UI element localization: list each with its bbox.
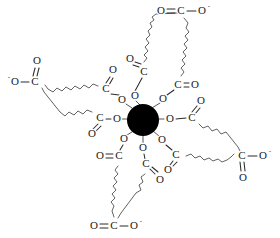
carbonyl-oxygen-c3: O [197, 94, 205, 106]
oxygen-label-o4: O [158, 133, 166, 145]
polymer-chain-top-right [181, 18, 189, 76]
polymer-chain-right-upper [199, 124, 240, 151]
outer-right-carbon: C [238, 149, 245, 161]
outer-left-carbon: C [31, 75, 38, 87]
polymer-chain-left-upper [45, 84, 98, 92]
outer-bottom-oxygen-double: O [90, 219, 98, 231]
carbonyl-c1-a [133, 65, 139, 67]
carbon-label-c6: C [115, 149, 122, 161]
carbonyl-oxygen-c6: O [96, 149, 104, 161]
polymer-chain-bottom-left [111, 166, 118, 217]
bond-o2-c2 [167, 90, 174, 95]
oxygen-label-o7: O [113, 112, 121, 124]
outer-carboxylate-right: C O - O [238, 147, 272, 183]
outer-left-oxygen-single: O [11, 75, 19, 87]
structure-canvas: O O O O O O O O C O C O C O C O C O C O … [0, 0, 280, 238]
carbon-label-c8: C [102, 82, 109, 94]
oxygen-label-o2: O [159, 92, 167, 104]
carbonyl-oxygen-c4: O [164, 163, 172, 175]
carbonyl-c4-b [173, 162, 177, 166]
carbon-label-c3: C [188, 111, 195, 123]
outer-right-oxygen-double: O [239, 171, 247, 183]
oxygen-label-o6: O [120, 132, 128, 144]
carbonyl-c7-b [96, 126, 101, 131]
carbon-label-c2: C [174, 78, 181, 90]
coord-bond-2 [152, 103, 160, 108]
bond-o4-c4 [166, 145, 172, 150]
outer-top-charge: - [208, 2, 211, 10]
outer-bottom-oxygen-single: O [130, 219, 138, 231]
metal-ion-core [127, 104, 159, 136]
oxygen-label-o1: O [131, 89, 139, 101]
polymer-chain-top-left [144, 13, 178, 62]
carbonyl-oxygen-c2: O [191, 78, 199, 90]
coord-bond-1 [136, 101, 140, 105]
carbonyl-c5-a [150, 169, 155, 174]
oxygen-label-o5: O [139, 141, 147, 153]
outer-top-carbon: C [177, 4, 184, 16]
chemical-structure-diagram: O O O O O O O O C O C O C O C O C O C O … [0, 0, 280, 238]
carbon-label-c1: C [140, 65, 147, 77]
polymer-chain-bottom-right [118, 174, 145, 218]
outer-right-oxygen-single: O [259, 149, 267, 161]
polymer-chain-right-lower [186, 154, 234, 162]
carbon-label-c7: C [96, 111, 103, 123]
oxygen-label-o3: O [166, 112, 174, 124]
outer-carboxylate-bottom: O C O - [90, 217, 143, 231]
carbon-label-c5: C [142, 157, 149, 169]
carbonyl-oxygen-c7: O [88, 127, 96, 139]
outer-top-oxygen-single: O [198, 4, 206, 16]
carbonyl-oxygen-c1: O [126, 52, 134, 64]
outer-right-charge: - [269, 147, 272, 155]
coord-bond-8 [126, 104, 132, 108]
outer-top-oxygen-double: O [157, 4, 165, 16]
carbon-label-c4: C [172, 148, 179, 160]
outer-left-oxygen-double: O [33, 54, 41, 66]
outer-bottom-charge: - [140, 217, 143, 225]
oxygen-label-o8: O [118, 93, 126, 105]
outer-bottom-carbon: C [110, 219, 117, 231]
carbonyl-oxygen-c5: O [156, 173, 164, 185]
carbonyl-oxygen-c8: O [109, 63, 117, 75]
carbonyl-c3-b [195, 108, 200, 114]
bond-o3-c3 [176, 118, 186, 119]
polymer-chain-left-lower [42, 88, 92, 116]
